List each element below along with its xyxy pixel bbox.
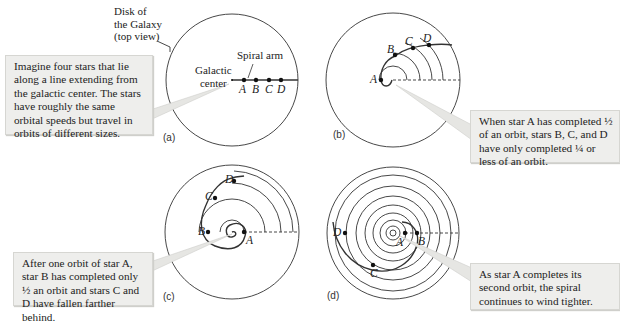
star-a-d	[279, 78, 283, 82]
star-label-b-a: A	[370, 73, 377, 85]
star-label-b-d: D	[423, 32, 431, 44]
panel-label-b: (b)	[333, 129, 345, 140]
star-d-a	[403, 231, 407, 235]
star-a-a	[242, 78, 246, 82]
star-label-b-b: B	[387, 43, 394, 55]
star-label-c-d: D	[225, 173, 233, 185]
star-label-d-d: D	[333, 226, 341, 238]
star-label-c-a: A	[246, 234, 253, 246]
star-label-c-b: B	[198, 225, 205, 237]
star-c-b	[206, 230, 210, 234]
star-c-c	[213, 196, 217, 200]
star-label-c: C	[265, 83, 273, 95]
pointer-a	[150, 84, 229, 120]
pointer-d	[400, 236, 472, 282]
star-a-c	[267, 78, 271, 82]
star-label-c-c: C	[205, 190, 213, 202]
star-d-d	[343, 231, 347, 235]
disk-label-leader	[157, 41, 170, 52]
star-label-d-b: B	[418, 235, 425, 247]
star-label-d-a: A	[396, 236, 403, 248]
star-label-a: A	[239, 83, 246, 95]
star-label-d: D	[277, 83, 285, 95]
panel-label-c: (c)	[163, 291, 175, 302]
star-a-b	[254, 78, 258, 82]
panel-label-a: (a)	[163, 132, 175, 143]
star-b-a	[379, 78, 383, 82]
panel-label-d: (d)	[327, 290, 339, 301]
galactic-center-label: Galactic center	[195, 64, 232, 89]
star-label-b-c: C	[405, 35, 413, 47]
disk-label: Disk of the Galaxy (top view)	[114, 5, 162, 43]
pointer-b	[396, 85, 472, 140]
star-label-d-c: C	[370, 267, 378, 279]
pointer-c	[150, 234, 232, 272]
spiral-arm-label: Spiral arm	[237, 49, 283, 62]
star-label-b: B	[252, 83, 259, 95]
callout-b: When star A has completed ½ of an orbit,…	[470, 110, 620, 163]
callout-d: As star A completes its second orbit, th…	[470, 263, 620, 310]
callout-a: Imagine four stars that lie along a line…	[5, 55, 153, 135]
callout-c: After one orbit of star A, star B has co…	[13, 252, 153, 306]
